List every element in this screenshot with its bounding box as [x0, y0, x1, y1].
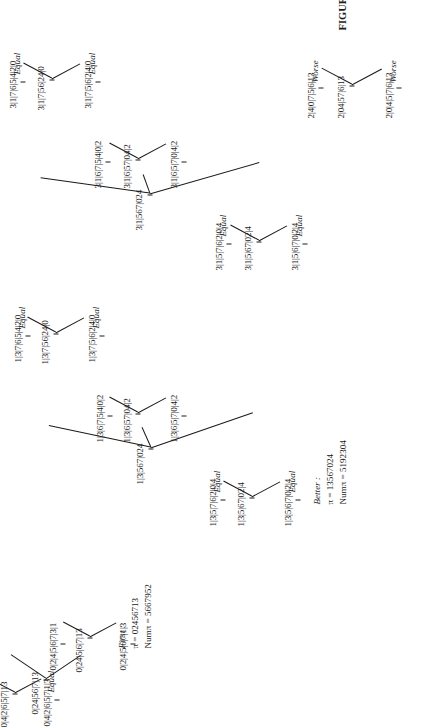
tree-edge — [251, 481, 280, 497]
node-tick — [20, 81, 25, 82]
worse-small-tree-leaf-label: Worse — [310, 60, 319, 82]
node-tick — [99, 335, 104, 336]
better-tree-root-node: 1|3|567|024 — [135, 443, 144, 484]
node-tick — [181, 415, 186, 416]
node-tick — [220, 499, 225, 500]
worse-tree-level3-node: 3|1|6|5|7|0|4|2 — [169, 140, 178, 188]
first-tree-level3-node: 0|2|4|5|6|7|3|1 — [48, 622, 57, 670]
tree-edge — [137, 143, 166, 159]
node-tick — [95, 81, 100, 82]
worse-tree-leaf-label: Equal — [12, 52, 21, 74]
node-tick — [295, 499, 300, 500]
node-tick — [105, 161, 110, 162]
tree-edge — [258, 225, 287, 241]
first-tree-annotation-num: Numπ = 5667952 — [141, 584, 154, 648]
node-tick — [60, 643, 65, 644]
worse-tree-leaf-label: Equal — [218, 214, 227, 236]
better-tree-annotation-pi: π = 13567024 — [323, 440, 336, 504]
tree-edge — [137, 397, 166, 413]
better-tree-leaf-label: Equal — [91, 306, 100, 328]
tree-edge — [55, 317, 84, 333]
node-tick — [107, 415, 112, 416]
node-tick — [54, 699, 59, 700]
tree-edge — [149, 162, 259, 194]
worse-small-tree-root-node: 2|04|57|6|13 — [336, 76, 345, 118]
better-tree-level3-node: 1|3|6|5|7|0|4|2 — [169, 394, 178, 442]
worse-tree-level3-node: 3|1|6|7|5|4|0|2 — [93, 140, 102, 188]
better-tree-leaf-label: Equal — [17, 306, 26, 328]
worse-small-tree-leaf-label: Worse — [388, 60, 397, 82]
figure-caption: FIGURE 7.2 (continued) — [336, 0, 347, 30]
tree-edge — [150, 412, 252, 448]
first-tree-annotation-pi: π = 02456713 — [128, 584, 141, 648]
node-tick — [181, 161, 186, 162]
better-tree-annotation-title: Better : — [310, 440, 323, 504]
first-tree-leaf-label: Equal — [46, 670, 55, 692]
tree-edge — [51, 63, 80, 79]
better-tree-leaf-label: Equal — [212, 470, 221, 492]
first-tree-level2-node: 0|24|5|6|7|13 — [74, 628, 83, 672]
better-tree-annotation-num: Numπ = 5192304 — [336, 440, 349, 504]
node-tick — [396, 87, 401, 88]
node-tick — [226, 243, 231, 244]
worse-tree-root-node: 3|1|567|024 — [134, 189, 143, 230]
better-tree-level3-node: 1|3|6|7|5|4|0|2 — [95, 394, 104, 442]
node-tick — [25, 335, 30, 336]
node-tick — [318, 87, 323, 88]
first-tree-annotation-title: First : — [115, 584, 128, 648]
better-tree-leaf-label: Equal — [287, 470, 296, 492]
first-tree-root-node: 0|24|56|7|13 — [30, 672, 39, 714]
better-tree-annotation: Better : π = 13567024 Numπ = 5192304 — [310, 440, 350, 504]
worse-tree-leaf-label: Equal — [294, 214, 303, 236]
tree-edge — [89, 622, 116, 637]
tree-edge — [351, 68, 381, 85]
node-tick — [302, 243, 307, 244]
tree-edge — [10, 654, 45, 678]
worse-tree-leaf-label: Equal — [87, 52, 96, 74]
first-tree-annotation: First : π = 02456713 Numπ = 5667952 — [115, 584, 155, 648]
